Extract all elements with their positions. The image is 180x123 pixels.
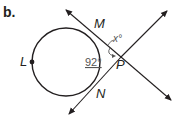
part-label: b. xyxy=(3,4,15,20)
label-l: L xyxy=(20,54,27,69)
label-p: P xyxy=(116,57,125,72)
tangent-line-m-lower xyxy=(121,57,171,100)
arc-measure-label: 92° xyxy=(85,56,102,68)
tangent-line-n-upper xyxy=(121,11,167,57)
label-m: M xyxy=(94,16,105,31)
geometry-figure: b. L M N P x° 92° xyxy=(0,0,180,123)
point-l-dot xyxy=(30,60,35,65)
angle-x-label: x° xyxy=(112,33,122,44)
label-n: N xyxy=(96,86,106,101)
